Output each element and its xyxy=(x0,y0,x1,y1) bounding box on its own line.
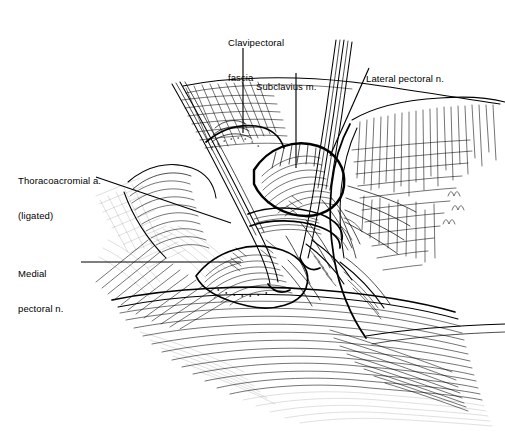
flap-lower-edge-2 xyxy=(372,332,505,344)
skin-edge-lower xyxy=(112,287,492,426)
flap-lower-fold xyxy=(340,258,390,319)
label-clavipectoral-fascia-line-1: Clavipectoral xyxy=(228,37,284,49)
label-lateral-pectoral-nerve: Lateral pectoral n. xyxy=(366,50,444,108)
label-thoracoacromial-artery-line-1: Thoracoacromial a. xyxy=(18,175,101,187)
pectoralis-major-flap xyxy=(330,97,505,338)
deep-hatching-cluster xyxy=(230,196,302,271)
label-medial-pectoral-nerve-line-2: pectoral n. xyxy=(18,303,63,315)
label-subclavius-muscle: Subclavius m. xyxy=(256,58,316,116)
label-medial-pectoral-nerve-line-1: Medial xyxy=(18,268,63,280)
label-thoracoacromial-artery-line-2: (ligated) xyxy=(18,210,101,222)
lower-left-sweeps xyxy=(140,332,275,404)
label-lateral-pectoral-nerve-line-1: Lateral pectoral n. xyxy=(366,73,444,85)
surgical-illustration-figure: Clavipectoral fascia Subclavius m. Later… xyxy=(0,0,505,434)
left-tissue-mass xyxy=(96,164,216,268)
label-thoracoacromial-artery: Thoracoacromial a. (ligated) xyxy=(18,152,101,244)
label-subclavius-muscle-line-1: Subclavius m. xyxy=(256,81,316,93)
label-medial-pectoral-nerve: Medial pectoral n. xyxy=(18,245,63,337)
lower-right-fan xyxy=(330,330,468,411)
flap-lower-edge xyxy=(366,324,505,336)
